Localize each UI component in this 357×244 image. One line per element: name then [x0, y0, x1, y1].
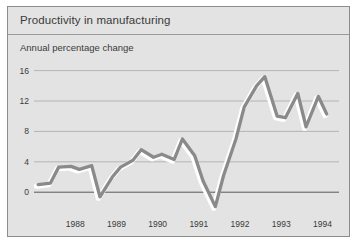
- y-axis-tick-label: 0: [13, 187, 29, 197]
- y-axis-tick-label: 8: [13, 126, 29, 136]
- x-axis-tick-label: 1990: [138, 219, 178, 229]
- y-axis-tick-label: 16: [13, 66, 29, 76]
- x-axis-tick-label: 1991: [179, 219, 219, 229]
- chart-subtitle: Annual percentage change: [20, 42, 134, 53]
- line-chart-svg: [34, 63, 339, 215]
- title-divider: [8, 34, 349, 35]
- x-axis-tick-label: 1992: [220, 219, 260, 229]
- series-line: [38, 77, 327, 207]
- y-axis-tick-label: 4: [13, 157, 29, 167]
- y-axis-tick-label: 12: [13, 96, 29, 106]
- chart-title: Productivity in manufacturing: [20, 14, 171, 26]
- x-axis-tick-label: 1993: [261, 219, 301, 229]
- x-axis-tick-label: 1989: [96, 219, 136, 229]
- plot-area: [34, 63, 339, 215]
- x-axis-tick-label: 1988: [55, 219, 95, 229]
- chart-figure: Productivity in manufacturing Annual per…: [7, 6, 350, 237]
- x-axis-tick-label: 1994: [303, 219, 343, 229]
